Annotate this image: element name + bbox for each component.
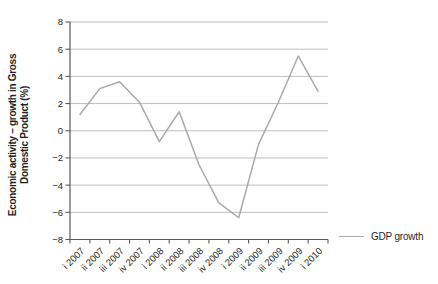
gdp-growth-chart: 86420−2−4−6−8i 2007ii 2007iii 2007iv 200… <box>0 0 438 284</box>
legend-label: GDP growth <box>371 231 423 242</box>
y-tick-label: 4 <box>58 71 63 82</box>
y-axis-title-line1: Economic activity – growth in Gross <box>7 54 18 216</box>
gdp-growth-line <box>80 56 318 218</box>
x-ticks: i 2007ii 2007iii 2007iv 2007i 2008ii 200… <box>60 240 328 275</box>
x-tick-label: i 2010 <box>298 245 324 271</box>
y-tick-label: −4 <box>52 180 63 191</box>
y-tick-label: 6 <box>58 44 63 55</box>
legend-line-sample-icon <box>339 236 364 237</box>
gridlines <box>70 22 328 212</box>
y-tick-label: 0 <box>58 125 63 136</box>
y-axis-title-line2: Domestic Product (%) <box>19 86 30 184</box>
y-tick-label: −8 <box>52 234 63 245</box>
y-tick-label: 2 <box>58 98 63 109</box>
y-axis-title: Economic activity – growth in Gross Dome… <box>7 20 31 250</box>
y-ticks: 86420−2−4−6−8 <box>52 16 70 245</box>
y-tick-label: 8 <box>58 16 63 27</box>
y-tick-label: −2 <box>52 152 63 163</box>
y-tick-label: −6 <box>52 207 63 218</box>
legend: GDP growth <box>339 231 423 242</box>
